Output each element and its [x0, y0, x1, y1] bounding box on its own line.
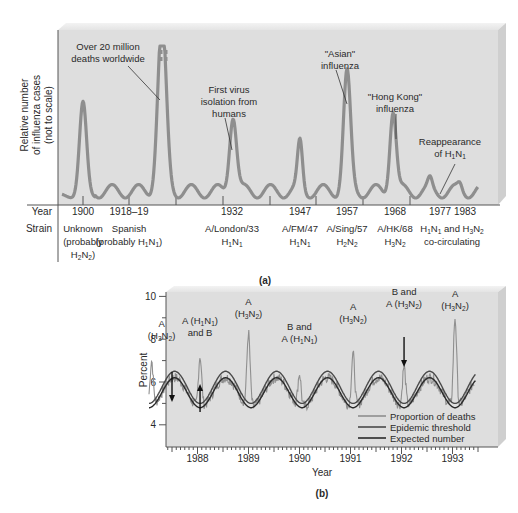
- svg-text:A: A: [245, 296, 252, 307]
- svg-text:(H3​N2​): (H3​N2​): [339, 313, 367, 325]
- svg-text:A/London/33: A/London/33: [205, 223, 259, 234]
- svg-text:1977: 1977: [429, 206, 452, 217]
- svg-text:Unknown: Unknown: [63, 223, 103, 234]
- panel-b-ylabel: Percent: [138, 353, 149, 388]
- svg-text:of H1​N1​: of H1​N1​: [434, 148, 466, 160]
- svg-text:and B: and B: [188, 327, 213, 338]
- svg-text:Over 20 million: Over 20 million: [76, 41, 139, 52]
- svg-text:1992: 1992: [390, 453, 413, 464]
- svg-text:1991: 1991: [339, 453, 362, 464]
- panel-b-side-bevel: [498, 286, 506, 447]
- svg-text:Expected number: Expected number: [390, 433, 464, 444]
- svg-text:H1​N1​: H1​N1​: [221, 236, 242, 248]
- svg-text:4: 4: [150, 419, 156, 430]
- svg-text:A/FM/47: A/FM/47: [282, 223, 318, 234]
- panel-b-legend: Proportion of deathsEpidemic thresholdEx…: [358, 411, 476, 444]
- panel-a-ylabel: Relative numberof influenza cases(not to…: [19, 75, 54, 155]
- svg-text:humans: humans: [212, 108, 246, 119]
- svg-text:A: A: [350, 301, 357, 312]
- panel-a-label: (a): [259, 275, 271, 286]
- svg-text:(H3​N2​): (H3​N2​): [148, 330, 176, 342]
- influenza-figure: Over 20 milliondeaths worldwideFirst vir…: [0, 0, 518, 513]
- svg-text:(H3​N2​): (H3​N2​): [235, 308, 263, 320]
- panel-a: Over 20 milliondeaths worldwideFirst vir…: [19, 23, 506, 286]
- svg-text:influenza: influenza: [376, 103, 415, 114]
- svg-text:Spanish: Spanish: [112, 223, 146, 234]
- svg-text:1993: 1993: [441, 453, 464, 464]
- svg-text:A/HK/68: A/HK/68: [377, 223, 412, 234]
- svg-text:H2​N2​: H2​N2​: [336, 236, 357, 248]
- svg-text:Proportion of deaths: Proportion of deaths: [390, 411, 476, 422]
- svg-text:(H3​N2​): (H3​N2​): [441, 300, 469, 312]
- svg-text:10: 10: [145, 291, 157, 302]
- svg-text:B and: B and: [287, 321, 312, 332]
- svg-text:isolation from: isolation from: [201, 96, 258, 107]
- panel-a-top-bevel: [58, 23, 506, 30]
- panel-b: 46810 198819891990199119921993 A(H3​N2​)…: [138, 286, 506, 499]
- svg-text:1968: 1968: [384, 206, 407, 217]
- svg-text:1947: 1947: [289, 206, 312, 217]
- svg-text:H1​N1​: H1​N1​: [289, 236, 310, 248]
- svg-text:B and: B and: [392, 286, 417, 297]
- svg-text:(probably H1​N1​): (probably H1​N1​): [96, 236, 163, 248]
- svg-text:co-circulating: co-circulating: [424, 236, 480, 247]
- svg-text:A/Sing/57: A/Sing/57: [326, 223, 367, 234]
- panel-b-xlabel: Year: [312, 467, 333, 478]
- svg-text:deaths worldwide: deaths worldwide: [71, 53, 144, 64]
- svg-text:1900: 1900: [72, 206, 95, 217]
- svg-text:1989: 1989: [237, 453, 260, 464]
- svg-text:1918–19: 1918–19: [110, 206, 149, 217]
- svg-text:First virus: First virus: [208, 84, 249, 95]
- panel-a-side-bevel: [498, 23, 506, 205]
- svg-text:H1​N1​ and H3​N2​: H1​N1​ and H3​N2​: [420, 223, 484, 235]
- svg-text:influenza: influenza: [321, 60, 360, 71]
- svg-text:"Asian": "Asian": [325, 48, 356, 59]
- svg-text:1990: 1990: [288, 453, 311, 464]
- svg-text:(not to scale): (not to scale): [43, 86, 54, 144]
- svg-text:H2​N2​): H2​N2​): [71, 249, 95, 261]
- panel-b-x-ticks: 198819891990199119921993: [168, 447, 478, 464]
- svg-text:"Hong Kong": "Hong Kong": [368, 91, 422, 102]
- svg-text:A: A: [158, 318, 165, 329]
- svg-text:Strain: Strain: [26, 223, 52, 234]
- svg-text:1932: 1932: [221, 206, 244, 217]
- svg-text:A: A: [452, 288, 459, 299]
- svg-text:of influenza cases: of influenza cases: [31, 75, 42, 155]
- svg-text:Relative number: Relative number: [19, 78, 30, 151]
- svg-text:1983: 1983: [454, 206, 477, 217]
- panel-b-label: (b): [316, 488, 329, 499]
- svg-text:H3​N2​: H3​N2​: [384, 236, 405, 248]
- svg-text:Year: Year: [32, 206, 53, 217]
- svg-text:Reappearance: Reappearance: [419, 136, 481, 147]
- svg-text:Epidemic threshold: Epidemic threshold: [390, 422, 471, 433]
- panel-a-year-strain-table: YearStrain1900Unknown(probablyH2​N2​)191…: [26, 206, 484, 261]
- svg-text:1957: 1957: [336, 206, 359, 217]
- svg-text:1988: 1988: [186, 453, 209, 464]
